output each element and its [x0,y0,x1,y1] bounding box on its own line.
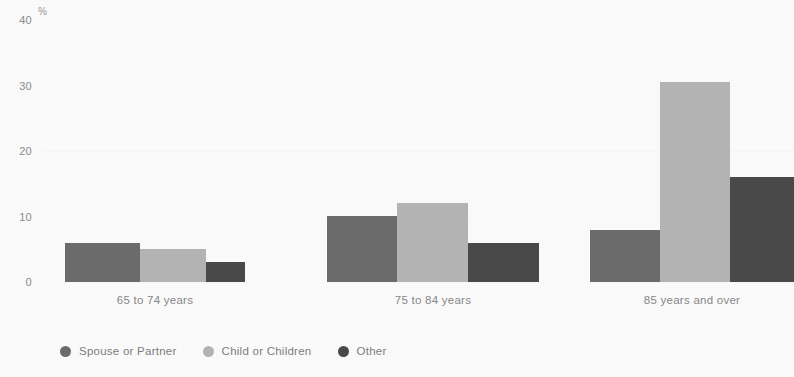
category-label-0: 65 to 74 years [65,293,245,307]
bar-85-years-and-over-spouse-or-partner [590,230,660,282]
legend-item-other[interactable]: Other [338,345,387,358]
bar-75-to-84-years-spouse-or-partner [327,216,397,282]
bar-75-to-84-years-child-or-children [397,203,468,282]
bar-65-to-74-years-spouse-or-partner [65,243,140,282]
bar-chart: % 40 30 20 10 0 65 to 74 years 75 to 84 … [0,0,794,377]
legend-label-1: Child or Children [222,345,312,358]
legend-item-child-or-children[interactable]: Child or Children [203,345,312,358]
legend-swatch-icon-2 [338,346,349,357]
bar-85-years-and-over-child-or-children [660,82,730,282]
chart-legend: Spouse or Partner Child or Children Othe… [60,345,387,358]
category-label-2: 85 years and over [590,293,794,307]
plot-area: % 40 30 20 10 0 65 to 74 years 75 to 84 … [0,0,794,377]
bars-layer [0,0,794,377]
legend-item-spouse-or-partner[interactable]: Spouse or Partner [60,345,177,358]
bar-85-years-and-over-other [730,177,794,282]
legend-label-0: Spouse or Partner [79,345,177,358]
bar-75-to-84-years-other [468,243,539,282]
bar-65-to-74-years-other [206,262,245,282]
category-label-1: 75 to 84 years [327,293,539,307]
legend-swatch-icon-0 [60,346,71,357]
bar-65-to-74-years-child-or-children [140,249,206,282]
legend-label-2: Other [357,345,387,358]
legend-swatch-icon-1 [203,346,214,357]
